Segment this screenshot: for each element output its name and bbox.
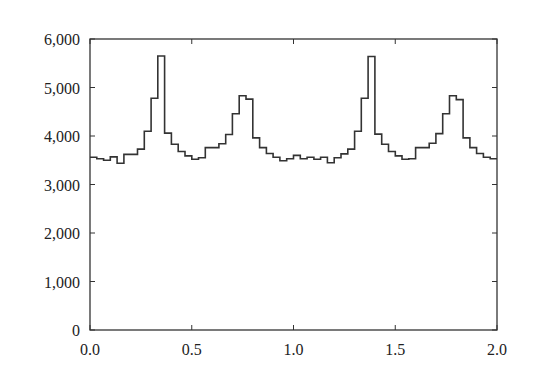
y-tick-label: 5,000 bbox=[44, 80, 80, 97]
x-tick-label: 2.0 bbox=[487, 341, 507, 358]
histogram-series bbox=[90, 56, 497, 163]
y-tick-label: 4,000 bbox=[44, 128, 80, 145]
y-tick-label: 3,000 bbox=[44, 177, 80, 194]
x-tick-label: 1.5 bbox=[385, 341, 405, 358]
y-tick-label: 2,000 bbox=[44, 225, 80, 242]
y-tick-label: 6,000 bbox=[44, 31, 80, 48]
x-tick-label: 0.0 bbox=[80, 341, 100, 358]
y-tick-label: 0 bbox=[72, 322, 80, 339]
x-tick-label: 0.5 bbox=[182, 341, 202, 358]
y-tick-label: 1,000 bbox=[44, 274, 80, 291]
x-tick-label: 1.0 bbox=[284, 341, 304, 358]
histogram-chart: 01,0002,0003,0004,0005,0006,000 0.00.51.… bbox=[0, 0, 538, 383]
plot-frame bbox=[90, 39, 497, 330]
